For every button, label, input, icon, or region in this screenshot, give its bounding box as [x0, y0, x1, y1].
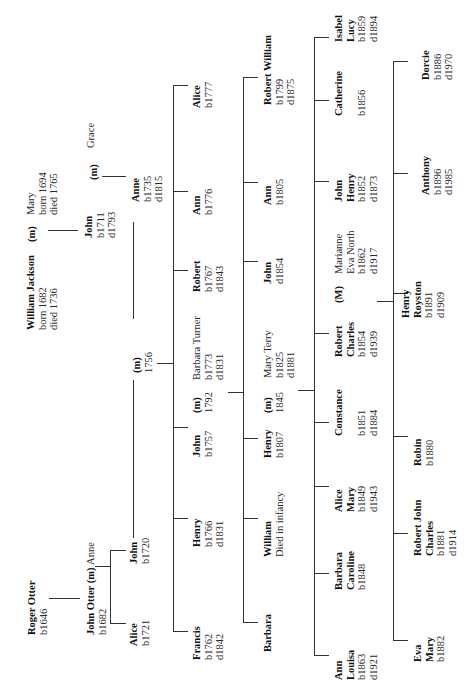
- tick-john-henry: [314, 181, 329, 182]
- connector-to-alice-1721: [110, 623, 126, 624]
- person-robert-john-charles: Robert John Charles b1881 d1914: [412, 494, 458, 556]
- connector-otter-children-bar: [110, 550, 111, 624]
- tick-anthony: [393, 173, 408, 174]
- person-william-infancy: William Died in infancy: [262, 487, 285, 557]
- children-bar-1792: [243, 77, 244, 623]
- person-robert-william: Robert William b1799 d1875: [262, 30, 297, 105]
- person-alice-mary: Alice Mary b1849 d1943: [333, 470, 379, 512]
- person-constance: Constance b1851 d1884: [333, 384, 379, 436]
- tick-ann-1805: [243, 182, 258, 183]
- tick-barbara-caroline: [314, 573, 329, 574]
- person-henry-1807: Henry b1807: [262, 416, 285, 458]
- connector-robert-marianne-to-children: [377, 301, 393, 302]
- person-barbara: Barbara: [262, 610, 274, 652]
- person-john-henry: John Henry b1852 d1873: [333, 160, 379, 202]
- person-john-1711: John b1711 d1793: [83, 196, 118, 238]
- person-eva-mary: Eva Mary b1882: [412, 622, 447, 662]
- connector-1845-to-children: [298, 390, 314, 391]
- children-bar-1756: [173, 85, 174, 631]
- tick-alice-1777: [173, 85, 188, 86]
- connector-1792-to-children: [228, 392, 244, 393]
- marriage-label-robert-marianne: (M): [333, 281, 345, 303]
- person-anne-1735: Anne b1735 d1815: [130, 160, 165, 202]
- person-mary-terry: Mary Terry b1825 d1881: [262, 316, 297, 378]
- person-barbara-caroline: Barbara Caroline b1848: [333, 548, 368, 590]
- person-anthony: Anthony b1896 d1985: [420, 145, 455, 195]
- person-catherine: Catherine b1856: [333, 70, 368, 116]
- tick-robert-john-charles: [393, 533, 408, 534]
- tick-john-1757: [173, 427, 188, 428]
- tick-william-infancy: [243, 518, 258, 519]
- person-robert-1767: Robert b1767 d1843: [191, 250, 226, 292]
- person-marianne-eva-north: Marianne Eva North b1862 d1917: [333, 210, 379, 274]
- connector-jackson-to-john: [48, 230, 78, 231]
- person-ann-louisa: Ann Louisa b1863 d1921: [333, 630, 379, 680]
- tick-henry-1807: [243, 438, 258, 439]
- person-john-1720: John b1720: [128, 528, 151, 564]
- tick-isabel-lucy: [314, 37, 329, 38]
- marriage-1756: (m) 1756: [131, 333, 154, 373]
- person-isabel-lucy: Isabel Lucy b1859 d1894: [333, 10, 379, 42]
- tick-robin: [393, 436, 408, 437]
- tick-francis: [173, 631, 188, 632]
- person-mary-1694: Mary born 1694 died 1765: [25, 140, 60, 215]
- tick-john-1854: [243, 261, 258, 262]
- tick-eva-mary: [393, 640, 408, 641]
- children-bar-robert-charles: [393, 61, 394, 641]
- marriage-label-jackson: (m): [26, 222, 38, 242]
- person-barbara-turner: Barbara Turner b1773 d1831: [191, 310, 226, 380]
- person-john-otter: John Otter (m) Anne b1682: [85, 535, 108, 635]
- connector-to-john-1720: [110, 550, 126, 551]
- connector-1756-to-children: [157, 363, 173, 364]
- tick-constance: [314, 422, 329, 423]
- tick-robert-william: [243, 77, 258, 78]
- person-francis: Francis b1762 d1842: [191, 615, 226, 660]
- person-robin: Robin b1880: [412, 418, 435, 466]
- person-robert-charles: Robert Charles b1854 d1939: [333, 305, 379, 357]
- person-grace: Grace: [85, 118, 97, 148]
- person-alice-1777: Alice b1777: [191, 70, 214, 108]
- marriage-line-upper: [133, 222, 134, 319]
- tick-henry-1766: [173, 518, 188, 519]
- tick-ann-1776: [173, 191, 188, 192]
- tick-dorcie: [393, 61, 408, 62]
- connector-john-grace-to-anne: [102, 176, 126, 177]
- person-ann-1776: Ann b1776: [191, 175, 214, 215]
- tick-catherine: [314, 100, 329, 101]
- marriage-1845: (m) 1845: [262, 383, 285, 413]
- person-william-jackson: William Jackson born 1682 died 1736: [25, 250, 60, 330]
- marriage-label-john-grace: (m): [88, 160, 100, 180]
- person-alice-1721: Alice b1721: [128, 610, 151, 646]
- person-roger-otter: Roger Otter b1646: [26, 575, 49, 635]
- tick-alice-mary: [314, 486, 329, 487]
- marriage-line-lower: [133, 380, 134, 538]
- family-tree-diagram: Roger Otter b1646 William Jackson born 1…: [0, 0, 475, 691]
- person-john-1854: John d1854: [262, 244, 285, 284]
- person-ann-1805: Ann b1805: [262, 165, 285, 205]
- tick-barbara: [243, 622, 258, 623]
- tick-robert-charles: [314, 333, 329, 334]
- tick-ann-louisa: [314, 655, 329, 656]
- tick-robert-1767: [173, 270, 188, 271]
- person-dorcie: Dorcie b1886 d1970: [420, 48, 455, 80]
- marriage-1792: (m) 1792: [191, 383, 214, 413]
- connector-roger-john-otter: [49, 598, 80, 599]
- person-henry-royston: Henry Royston b1891 d1909: [400, 270, 446, 318]
- children-bar-1845: [314, 37, 315, 656]
- person-john-1757: John b1757: [191, 415, 214, 457]
- person-henry-1766: Henry b1766 d1831: [191, 505, 226, 547]
